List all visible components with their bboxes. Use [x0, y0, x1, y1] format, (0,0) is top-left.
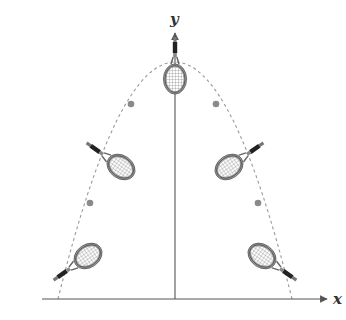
y-axis-label: y [169, 10, 180, 28]
racket-icon-top [163, 37, 186, 94]
racket-icon-upper-left [80, 133, 140, 185]
racket-icon-lower-right [243, 238, 303, 290]
center-of-mass-dot [255, 200, 262, 207]
center-of-mass-dot [213, 101, 220, 108]
x-axis-label: x [332, 290, 343, 308]
trajectory-diagram: x y [0, 0, 346, 320]
racket-icon-lower-left [47, 238, 107, 290]
center-of-mass-dot [128, 101, 135, 108]
racket-icon-upper-right [210, 133, 270, 185]
center-of-mass-dot [87, 200, 94, 207]
